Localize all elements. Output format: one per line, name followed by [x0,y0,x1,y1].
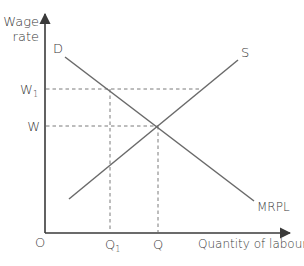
x-axis-label: Quantity of labour [198,237,304,251]
y-axis-label-line2: rate [13,29,39,44]
demand-label: D [53,41,63,56]
q1-label: Q1 [105,237,120,254]
w-label: W [27,119,40,134]
origin-label: O [35,235,45,250]
y-axis-label-line1: Wage [3,14,39,29]
mrpl-label: MRPL [257,200,290,214]
supply-curve [69,60,238,199]
supply-label: S [241,45,249,60]
labour-market-diagram: Wage rate W1 W D S MRPL O Q1 Q Quantity … [0,0,304,266]
w1-label: W1 [20,82,38,99]
q-label: Q [153,237,163,252]
